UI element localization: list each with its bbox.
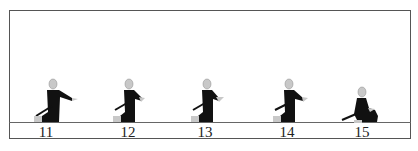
frame-label-13: 13 <box>198 124 213 141</box>
frame-label-12: 12 <box>121 124 136 141</box>
frame-label-11: 11 <box>39 124 53 141</box>
figure-14 <box>268 76 318 124</box>
figure-11 <box>30 76 85 124</box>
frame-label-14: 14 <box>280 124 295 141</box>
figure-12 <box>108 76 158 124</box>
figure-13 <box>186 76 236 124</box>
frame-label-15: 15 <box>355 124 370 141</box>
figure-15 <box>340 76 390 124</box>
